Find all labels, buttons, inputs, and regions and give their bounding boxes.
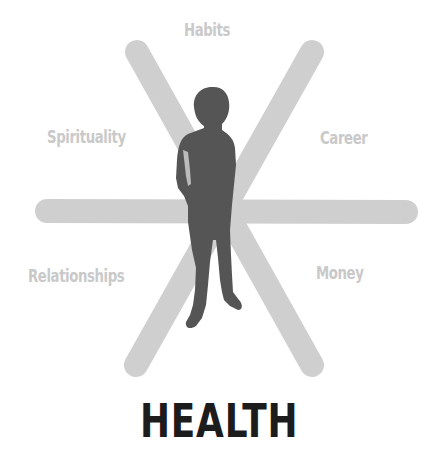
label-relationships: Relationships xyxy=(28,268,124,285)
label-career: Career xyxy=(320,130,367,147)
label-spirituality: Spirituality xyxy=(47,129,126,146)
label-habits: Habits xyxy=(184,22,230,39)
label-money: Money xyxy=(316,265,363,282)
health-diagram: Habits Spirituality Career Relationships… xyxy=(0,0,445,450)
diagram-title: HEALTH xyxy=(140,398,298,444)
spokes-and-figure xyxy=(0,0,445,450)
